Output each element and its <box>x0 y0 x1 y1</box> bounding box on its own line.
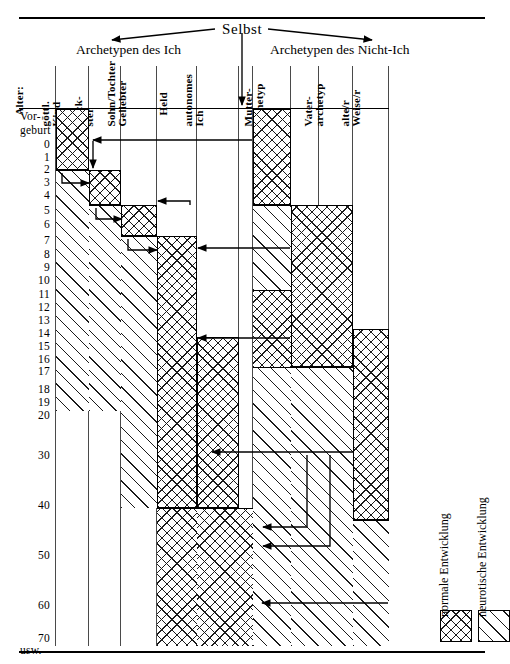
age-label-12: 12 <box>10 302 50 314</box>
band-trickster-normal <box>89 170 121 205</box>
age-label-usw: usw. <box>20 645 64 657</box>
column-header-held-l1: Held <box>158 92 170 115</box>
age-label-11: 11 <box>10 289 50 301</box>
column-header-weise-l2: Weise/r <box>351 90 362 127</box>
age-label-4: 4 <box>10 190 50 202</box>
age-label-19: 19 <box>10 397 50 409</box>
legend-label-normal: normale Entwicklung <box>437 513 452 617</box>
arrow-selbst-to-nicht-ich <box>268 29 372 40</box>
band-trickster-divider <box>89 205 121 206</box>
band-autonomes-ich-late <box>197 508 253 646</box>
band-mutter-neurotic-2 <box>253 367 291 646</box>
column-header-autonomes-ich: autonomes Ich <box>183 74 205 127</box>
band-sohn-tochter-neurotic <box>121 236 157 508</box>
age-label-70: 70 <box>10 633 50 645</box>
band-autonomes-ich-divider <box>197 508 253 509</box>
band-goettl-kind-divider <box>56 170 89 171</box>
band-mutter-normal-2 <box>253 290 291 367</box>
column-header-sohn-tochter: Sohn/Tochter Geliebter <box>106 61 128 127</box>
branch-label-nicht-ich: Archetypen des Nicht-Ich <box>270 42 409 58</box>
age-label-5: 5 <box>10 205 50 217</box>
column-header-vater-l2: archetyp <box>314 83 325 126</box>
band-trickster-neurotic <box>89 205 121 411</box>
age-label-7: 7 <box>10 235 50 247</box>
age-label-30: 30 <box>10 450 50 462</box>
column-header-sohn-tochter-l2: Geliebter <box>117 61 128 127</box>
column-header-held: Held <box>158 92 170 115</box>
age-label-50: 50 <box>10 550 50 562</box>
age-label-1: 1 <box>10 152 50 164</box>
age-label-8: 8 <box>10 249 50 261</box>
band-held-divider <box>157 508 197 509</box>
age-label-60: 60 <box>10 600 50 612</box>
band-held-late <box>157 508 197 646</box>
band-mutter-div-2 <box>253 290 291 291</box>
band-autonomes-ich-early <box>197 337 239 508</box>
age-label-15: 15 <box>10 341 50 353</box>
age-label-9: 9 <box>10 262 50 274</box>
band-mutter-div-3 <box>253 367 291 368</box>
band-vater-neurotic <box>291 367 353 646</box>
branch-label-ich: Archetypen des Ich <box>76 42 181 58</box>
age-label-10: 10 <box>10 275 50 287</box>
band-goettl-kind-normal <box>56 109 89 170</box>
band-weise-neurotic <box>353 520 389 646</box>
age-label-20: 20 <box>10 410 50 422</box>
band-held-normal <box>157 236 197 508</box>
top-rule <box>19 17 485 19</box>
age-label-13: 13 <box>10 315 50 327</box>
age-label-2: 2 <box>10 164 50 176</box>
column-header-autonomes-ich-l2: Ich <box>194 74 205 127</box>
column-header-vater: Vater- archetyp <box>303 83 325 126</box>
band-vater-divider <box>291 367 353 368</box>
age-label-16: 16 <box>10 354 50 366</box>
root-label: Selbst <box>222 21 262 38</box>
age-label-3: 3 <box>10 177 50 189</box>
band-sohn-tochter-divider <box>121 236 157 237</box>
age-label-40: 40 <box>10 500 50 512</box>
age-label-6: 6 <box>10 219 50 231</box>
band-sohn-tochter-normal <box>121 205 157 236</box>
column-header-weise: alte/r Weise/r <box>340 90 362 127</box>
arrow-vater-to-sohn-tochter <box>158 201 190 205</box>
legend-label-neurotic: neurotische Entwicklung <box>475 497 490 617</box>
band-weise-divider <box>353 520 389 521</box>
band-mutter-neurotic-1 <box>253 205 291 290</box>
band-mutter-div-1 <box>253 205 291 206</box>
age-label-14: 14 <box>10 328 50 340</box>
age-label-17: 17 <box>10 366 50 378</box>
bottom-rule <box>19 651 485 653</box>
age-label-18: 18 <box>10 384 50 396</box>
arrow-selbst-to-ich <box>112 29 215 40</box>
band-mutter-normal-1 <box>253 109 291 205</box>
band-vater-normal <box>291 205 353 367</box>
band-goettl-kind-neurotic <box>56 170 89 411</box>
band-weise-normal <box>353 329 389 520</box>
age-label-0: 0 <box>10 139 50 151</box>
